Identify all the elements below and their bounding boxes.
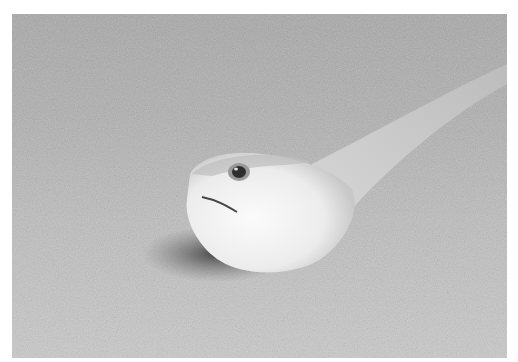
fish-on-sand-illustration <box>12 14 507 358</box>
photograph <box>12 14 507 358</box>
